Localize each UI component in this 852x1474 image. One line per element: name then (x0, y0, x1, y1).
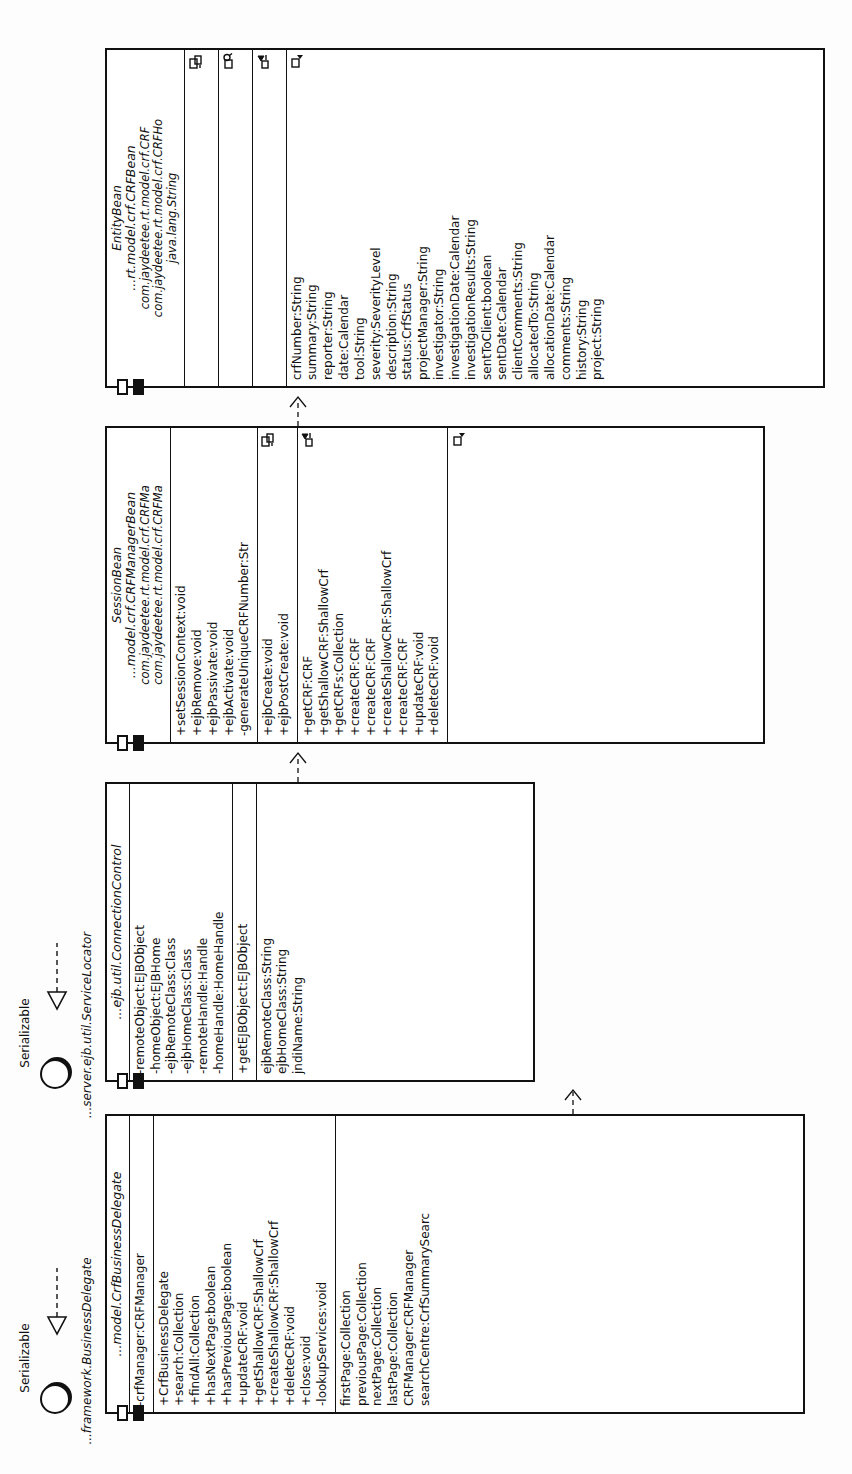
member-row: +hasNextPage:boolean (204, 1122, 220, 1406)
member-row: +deleteCRF:void (427, 434, 443, 736)
member-row: nextPage:Collection (370, 1122, 386, 1406)
interface-lollipop-businessdelegate: Serializable ...framework.BusinessDelega… (40, 1384, 70, 1414)
compartment-business-smb: +getCRF:CRF +getShallowCRF:ShallowCrf +g… (297, 428, 447, 742)
class-qualifier-1: com.jaydeetee.rt.model.crf.CRF (139, 56, 153, 380)
class-header-crf-manager-bean: SessionBean ...model.crf.CRFManagerBean … (107, 428, 170, 742)
member-row: +getCRFs:Collection (332, 434, 348, 736)
interface-name-serializable-1: Serializable (18, 1298, 32, 1418)
member-row: +CrfBusinessDelegate (157, 1122, 173, 1406)
member-row: -lookupServices:void (315, 1122, 331, 1406)
compartment-attributes-eb: crfNumber:String summary:String reporter… (286, 50, 611, 386)
realization-arrow-1 (46, 1264, 68, 1334)
dependency-arrow-cc-to-smb (285, 746, 311, 782)
class-header-crf-bean: EntityBean ...rt.model.crf.CRFBean com.j… (107, 50, 184, 386)
member-row: project:String (590, 56, 606, 380)
rotation-wrapper: Serializable ...framework.BusinessDelega… (0, 0, 852, 1474)
member-row: +search:Collection (172, 1122, 188, 1406)
member-row: +createShallowCRF:ShallowCrf (380, 434, 396, 736)
class-name-crf-bean: ...rt.model.crf.CRFBean (124, 56, 139, 380)
class-name-crf-business-delegate: ...model.CrfBusinessDelegate (110, 1122, 125, 1406)
realization-arrow-2 (46, 939, 68, 1009)
member-row: investigator:String (432, 56, 448, 380)
member-row: -homeHandle:HomeHandle (212, 790, 228, 1074)
member-row: allocatedTo:String (527, 56, 543, 380)
member-row: +close:void (299, 1122, 315, 1406)
member-row: +createCRF:CRF (364, 434, 380, 736)
ejb-create-icon (189, 54, 203, 69)
member-row: comments:String (559, 56, 575, 380)
member-row: allocationDate:Calendar (543, 56, 559, 380)
compartment-create-smb: +ejbCreate:void +ejbPostCreate:void (257, 428, 297, 742)
member-row: -ejbHomeClass:Class (180, 790, 196, 1074)
compartment-finder-eb (218, 50, 252, 386)
interface-qualified-servicelocator: ...server.ejb.util.ServiceLocator (80, 905, 94, 1145)
member-row: -ejbRemoteClass:Class (164, 790, 180, 1074)
class-header-connection-control: ...ejb.util.ConnectionControl (107, 784, 129, 1080)
member-row: +createCRF:CRF (348, 434, 364, 736)
interface-lollipop-servicelocator: Serializable ...server.ejb.util.ServiceL… (40, 1059, 70, 1089)
ejb-finder-icon (223, 54, 237, 69)
class-stereotype-sessionbean: SessionBean (110, 434, 124, 736)
interface-name-serializable-2: Serializable (18, 973, 32, 1093)
uml-canvas: Serializable ...framework.BusinessDelega… (0, 0, 852, 1474)
lollipop-icon (40, 1384, 70, 1414)
member-row: previousPage:Collection (355, 1122, 371, 1406)
compartment-lifecycle-smb: +setSessionContext:void +ejbRemove:void … (170, 428, 257, 742)
member-row: date:Calendar (337, 56, 353, 380)
class-box-crf-business-delegate: ...model.CrfBusinessDelegate -crfManager… (105, 1114, 805, 1414)
member-row: +createCRF:CRF (396, 434, 412, 736)
ejb-business-icon (257, 54, 271, 69)
member-row: +updateCRF:void (236, 1122, 252, 1406)
member-row: +getShallowCRF:ShallowCrf (252, 1122, 268, 1406)
ejb-business-icon (301, 432, 315, 447)
compartment-business-eb (252, 50, 286, 386)
member-row: investigationDate:Calendar (448, 56, 464, 380)
lollipop-icon (40, 1059, 70, 1089)
interface-qualified-businessdelegate: ...framework.BusinessDelegate (80, 1236, 94, 1466)
class-qualifier-3: java.lang.String (166, 56, 180, 380)
class-box-crf-manager-bean: SessionBean ...model.crf.CRFManagerBean … (105, 426, 765, 744)
member-row: +createShallowCRF:ShallowCrf (267, 1122, 283, 1406)
compartment-create-eb (184, 50, 218, 386)
class-port-notch-a (117, 735, 128, 751)
member-row: +getCRF:CRF (301, 434, 317, 736)
class-port-notch-a (117, 1405, 128, 1421)
member-row: crfNumber:String (290, 56, 306, 380)
member-row: -remoteObject:EJBObject (133, 790, 149, 1074)
member-row: jndiName:String (291, 790, 307, 1074)
member-row: +findAll:Collection (188, 1122, 204, 1406)
member-row: +ejbPassivate:void (206, 434, 222, 736)
dependency-arrow-cbd-to-cc (560, 1084, 586, 1114)
class-qualifier-1: com.jaydeetee.rt.model.crf.CRFMa (139, 434, 153, 736)
ejb-create-icon (261, 432, 275, 447)
member-row: +ejbRemove:void (190, 434, 206, 736)
member-row: ejbRemoteClass:String (260, 790, 276, 1074)
class-port-notch-b (133, 1405, 144, 1421)
member-row: summary:String (305, 56, 321, 380)
class-name-crf-manager-bean: ...model.crf.CRFManagerBean (124, 434, 139, 736)
class-box-connection-control: ...ejb.util.ConnectionControl -remoteObj… (105, 782, 535, 1082)
compartment-operations-cbd: +CrfBusinessDelegate +search:Collection … (153, 1116, 335, 1412)
compartment-properties-cc: ejbRemoteClass:String ejbHomeClass:Strin… (256, 784, 311, 1080)
class-port-notch-a (117, 1073, 128, 1089)
member-row: +hasPreviousPage:boolean (220, 1122, 236, 1406)
member-row: investigationResults:String (464, 56, 480, 380)
member-row: sentDate:Calendar (495, 56, 511, 380)
compartment-tail-smb (447, 428, 499, 742)
member-row: +getEJBObject:EJBObject (236, 790, 252, 1074)
member-row: reporter:String (321, 56, 337, 380)
member-row: +ejbCreate:void (261, 434, 277, 736)
member-row: description:String (385, 56, 401, 380)
compartment-operations-cc: +getEJBObject:EJBObject (232, 784, 256, 1080)
class-header-crf-business-delegate: ...model.CrfBusinessDelegate (107, 1116, 129, 1412)
compartment-properties-cbd: firstPage:Collection previousPage:Collec… (335, 1116, 438, 1412)
member-row: -remoteHandle:Handle (196, 790, 212, 1074)
member-row: +getShallowCRF:ShallowCrf (317, 434, 333, 736)
member-row: +deleteCRF:void (283, 1122, 299, 1406)
member-row: ejbHomeClass:String (275, 790, 291, 1074)
class-port-notch-b (133, 735, 144, 751)
class-port-notch-b (133, 1073, 144, 1089)
member-row: firstPage:Collection (339, 1122, 355, 1406)
member-row: CRFManager:CRFManager (402, 1122, 418, 1406)
ejb-tail-icon (452, 432, 466, 447)
